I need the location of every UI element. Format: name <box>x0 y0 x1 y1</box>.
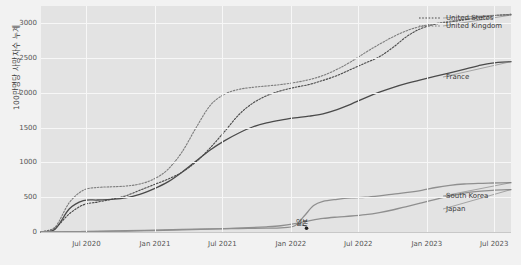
series-label-france: France <box>446 73 469 81</box>
gridline-vertical <box>494 6 495 232</box>
chart-root: 100만명당 사망자수 누계 050010001500200025003000J… <box>0 0 521 265</box>
gridline-vertical <box>427 6 428 232</box>
gridline-vertical <box>291 6 292 232</box>
y-axis-tick-label: 0 <box>3 228 37 236</box>
chart-annotation-label: 일본 <box>296 217 308 227</box>
gridline-horizontal <box>41 58 511 59</box>
gridline-vertical <box>358 6 359 232</box>
x-axis-tick-label: Jan 2022 <box>275 240 306 248</box>
series-label-south-korea: South Korea <box>446 192 488 200</box>
series-label-japan: Japan <box>446 205 466 213</box>
x-axis-tick-label: Jul 2020 <box>72 240 101 248</box>
y-axis-tick-label: 500 <box>3 193 37 201</box>
gridline-vertical <box>86 6 87 232</box>
series-line-south-korea <box>41 183 511 232</box>
x-axis-tick-label: Jul 2023 <box>480 240 509 248</box>
y-axis-title: 100만명당 사망자수 누계 <box>10 0 21 138</box>
gridline-vertical <box>155 6 156 232</box>
x-axis-tick-label: Jan 2021 <box>140 240 171 248</box>
series-line-france <box>41 62 511 232</box>
series-line-japan <box>41 190 511 232</box>
y-axis-tick-label: 1000 <box>3 158 37 166</box>
series-label-united-kingdom: United Kingdom <box>446 22 502 30</box>
gridline-horizontal <box>41 128 511 129</box>
gridline-horizontal <box>41 162 511 163</box>
series-label-united-states: United States <box>446 14 493 22</box>
x-axis-tick-label: Jan 2023 <box>411 240 442 248</box>
gridline-vertical <box>222 6 223 232</box>
x-axis-tick-label: Jul 2021 <box>208 240 237 248</box>
gridline-horizontal <box>41 93 511 94</box>
plot-area <box>41 6 511 232</box>
axis-baseline <box>41 232 511 233</box>
x-axis-tick-label: Jul 2022 <box>344 240 373 248</box>
gridline-horizontal <box>41 197 511 198</box>
gridline-horizontal <box>41 23 511 24</box>
